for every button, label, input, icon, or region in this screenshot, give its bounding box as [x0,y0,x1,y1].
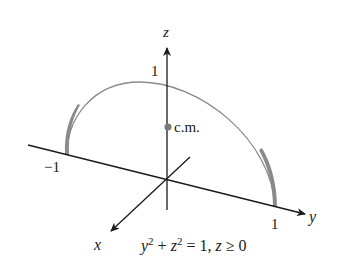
y-axis-label: y [307,208,317,226]
z-axis-label: z [162,24,169,40]
z-tick-one: 1 [151,63,159,79]
y-tick-negative-one: −1 [44,159,60,175]
curve-equation: y2 + z2 = 1, z ≥ 0 [139,235,246,255]
center-of-mass-dot [164,123,171,130]
semicircle-arc [65,82,277,207]
semicircle-center-of-mass-diagram: z 1 c.m. −1 1 y x y2 + z2 = 1, z ≥ 0 [0,0,340,275]
x-axis-label: x [93,236,101,253]
center-of-mass-label: c.m. [174,119,200,135]
y-tick-one: 1 [271,216,279,232]
